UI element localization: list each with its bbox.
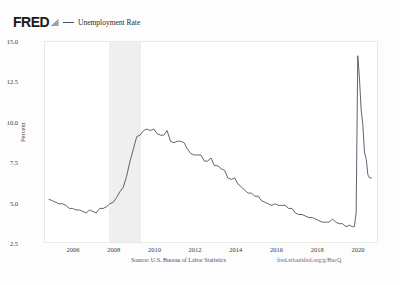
fred-logo: FRED (13, 15, 49, 29)
series-unemployment-rate (45, 42, 377, 242)
fred-url-watermark[interactable]: fred.stlouisfed.org/g/BucQ (277, 257, 341, 263)
x-tick-2016: 2016 (270, 246, 283, 253)
chart-legend: Unemployment Rate (63, 18, 140, 27)
y-tick-10-0: 10.0 (0, 118, 18, 125)
x-tick-2014: 2014 (229, 246, 242, 253)
x-tick-2018: 2018 (311, 246, 324, 253)
x-tick-2020: 2020 (351, 246, 364, 253)
x-tick-2006: 2006 (67, 246, 80, 253)
fred-chart-figure: FRED Unemployment Rate Percent 15.0 12.5… (0, 0, 400, 285)
y-tick-5-0: 5.0 (0, 199, 18, 206)
y-tick-2-5: 2.5 (0, 240, 18, 247)
x-tick-2010: 2010 (148, 246, 161, 253)
source-note: Source: U.S. Bureau of Labor Statistics (131, 257, 226, 263)
plot-area (44, 41, 378, 243)
x-tick-2012: 2012 (189, 246, 202, 253)
y-axis-label: Percent (19, 123, 26, 143)
legend-swatch-unemployment-rate (63, 22, 74, 23)
x-tick-2008: 2008 (107, 246, 120, 253)
legend-label-unemployment-rate: Unemployment Rate (78, 18, 140, 27)
chart-header: FRED Unemployment Rate (0, 6, 400, 28)
y-tick-15-0: 15.0 (0, 38, 18, 45)
y-tick-7-5: 7.5 (0, 159, 18, 166)
y-tick-12-5: 12.5 (0, 78, 18, 85)
sparkline-icon (50, 18, 59, 27)
